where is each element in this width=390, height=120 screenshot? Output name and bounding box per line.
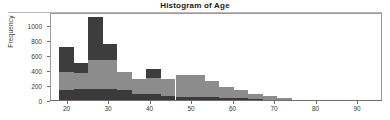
x-tick-mark — [274, 101, 275, 104]
x-tick-mark — [150, 101, 151, 104]
x-tick-mark — [191, 101, 192, 104]
x-tick-mark — [357, 101, 358, 104]
x-tick-label: 40 — [140, 105, 160, 113]
x-tick-mark — [316, 101, 317, 104]
x-tick-label: 30 — [98, 105, 118, 113]
x-tick-mark — [233, 101, 234, 104]
x-tick-label: 90 — [347, 105, 367, 113]
x-tick-label: 70 — [264, 105, 284, 113]
x-tick-label: 50 — [181, 105, 201, 113]
x-tick-mark — [67, 101, 68, 104]
histogram-chart: Histogram of Age Frequency 0200400600800… — [0, 0, 390, 120]
x-tick-mark — [108, 101, 109, 104]
x-tick-label: 20 — [57, 105, 77, 113]
x-axis-ticks: 2030405060708090 — [0, 0, 390, 120]
x-tick-label: 60 — [223, 105, 243, 113]
x-tick-label: 80 — [306, 105, 326, 113]
